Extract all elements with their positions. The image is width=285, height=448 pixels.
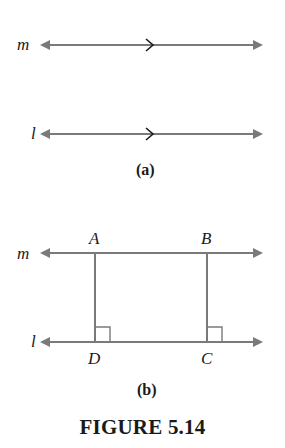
label-line-l-b: l (31, 333, 36, 350)
panel-a-label: (a) (136, 162, 155, 178)
figure-caption: FIGURE 5.14 (0, 417, 285, 438)
label-line-m-b: m (17, 245, 29, 262)
label-line-m-a: m (17, 36, 29, 53)
label-line-l-a: l (31, 125, 36, 142)
label-point-B: B (201, 230, 211, 247)
panel-b (42, 253, 261, 342)
panel-a (42, 39, 261, 140)
right-angle-mark-C (207, 327, 222, 342)
right-angle-mark-D (95, 327, 110, 342)
label-point-A: A (89, 230, 99, 247)
panel-b-label: (b) (137, 382, 157, 398)
label-point-D: D (88, 350, 100, 367)
label-point-C: C (201, 350, 212, 367)
